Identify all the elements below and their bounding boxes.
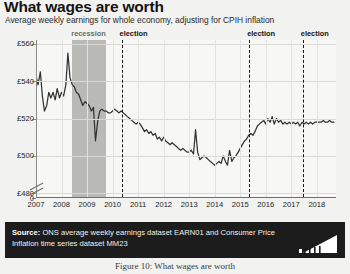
- x-axis-label: 2009: [74, 200, 100, 209]
- gridline-x: [138, 40, 139, 197]
- gridline-x: [215, 40, 216, 197]
- x-axis-label: 2008: [49, 200, 75, 209]
- source-text: Source: ONS average weekly earnings data…: [12, 227, 287, 249]
- y-axis-label: £560: [0, 39, 34, 48]
- x-axis-label: 2011: [125, 200, 151, 209]
- figure-container: What wages are worth Average weekly earn…: [0, 0, 350, 274]
- election-2017-label: election: [301, 29, 329, 38]
- x-axis-label: 2015: [227, 200, 253, 209]
- election-2010-label: election: [120, 29, 148, 38]
- election-2017-line: [303, 40, 304, 197]
- election-2010-line: [122, 40, 123, 197]
- plot-area: [36, 40, 336, 197]
- chart-subtitle: Average weekly earnings for whole econom…: [5, 15, 274, 25]
- election-2015-line: [249, 40, 250, 197]
- ons-bar-logo-icon: [297, 234, 339, 254]
- gridline-x: [291, 40, 292, 197]
- y-axis: [36, 40, 37, 197]
- x-axis-label: 2010: [100, 200, 126, 209]
- gridline-x: [189, 40, 190, 197]
- gridline-x: [266, 40, 267, 197]
- y-axis-label: £500: [0, 151, 34, 160]
- x-axis-label: 2016: [253, 200, 279, 209]
- x-axis-label: 2018: [304, 200, 330, 209]
- x-axis-label: 2017: [278, 200, 304, 209]
- recession-label: recession: [71, 29, 106, 38]
- y-axis-label: £540: [0, 77, 34, 86]
- x-axis-label: 2013: [176, 200, 202, 209]
- earnings-line: [36, 53, 334, 165]
- election-2015-label: election: [247, 29, 275, 38]
- source-detail: ONS average weekly earnings dataset EARN…: [12, 228, 275, 248]
- gridline-x: [240, 40, 241, 197]
- figure-caption: Figure 10: What wages are worth: [0, 261, 350, 274]
- gridline-x: [317, 40, 318, 197]
- page-title: What wages are worth: [4, 0, 164, 16]
- gridline-x: [87, 40, 88, 197]
- x-axis-label: 2014: [202, 200, 228, 209]
- x-axis-label: 2007: [23, 200, 49, 209]
- x-axis: [36, 197, 336, 198]
- gridline-x: [164, 40, 165, 197]
- x-axis-label: 2012: [151, 200, 177, 209]
- source-label: Source:: [12, 228, 40, 237]
- gridline-x: [62, 40, 63, 197]
- source-bar: Source: ONS average weekly earnings data…: [5, 222, 345, 258]
- y-axis-label: £520: [0, 114, 34, 123]
- gridline-x: [113, 40, 114, 197]
